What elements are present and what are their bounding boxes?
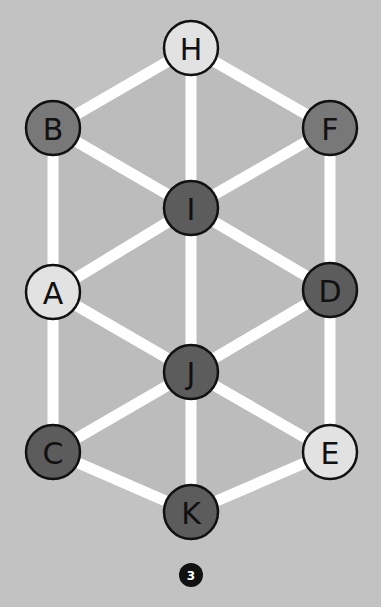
node-label: H	[180, 32, 203, 67]
node-f: F	[303, 101, 357, 155]
node-i: I	[164, 181, 218, 235]
badge-label: 3	[187, 569, 195, 583]
node-label: K	[181, 496, 202, 531]
step-badge: 3	[179, 563, 203, 587]
graph-diagram: HBFIADJCEK 3	[0, 0, 381, 607]
node-label: E	[321, 436, 340, 471]
node-label: A	[43, 276, 64, 311]
node-label: B	[43, 112, 64, 147]
node-d: D	[303, 263, 357, 317]
node-b: B	[26, 101, 80, 155]
node-h: H	[164, 21, 218, 75]
node-a: A	[26, 265, 80, 319]
node-label: F	[321, 112, 338, 147]
node-c: C	[26, 425, 80, 479]
node-label: C	[43, 436, 64, 471]
node-label: J	[185, 356, 196, 391]
node-k: K	[164, 485, 218, 539]
node-j: J	[164, 345, 218, 399]
node-label: D	[318, 274, 341, 309]
node-label: I	[187, 192, 196, 227]
node-e: E	[303, 425, 357, 479]
